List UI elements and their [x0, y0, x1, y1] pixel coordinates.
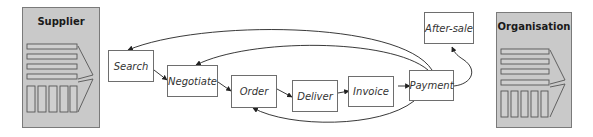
step-label: Order — [240, 86, 269, 97]
step-search: Search — [108, 50, 154, 82]
step-label: Deliver — [297, 91, 333, 102]
step-label: Negotiate — [168, 76, 217, 87]
supplier-document-icon — [27, 44, 93, 112]
step-label: Search — [114, 61, 149, 72]
step-negotiate: Negotiate — [167, 65, 218, 97]
step-deliver: Deliver — [292, 80, 338, 112]
diagram-graphics — [0, 0, 593, 137]
step-invoice: Invoice — [348, 76, 394, 107]
arrow-search-negotiate — [154, 70, 167, 80]
arrow-payment-aftersale — [452, 47, 472, 86]
step-label: After-sale — [425, 23, 473, 34]
step-after-sale: After-sale — [424, 12, 474, 44]
step-order: Order — [231, 75, 277, 108]
arrow-order-deliver — [277, 89, 292, 97]
step-label: Invoice — [353, 86, 389, 97]
arrow-negotiate-order — [218, 82, 231, 91]
step-label: Payment — [409, 80, 453, 91]
arrow-payment-search — [128, 30, 432, 70]
organisation-document-icon — [501, 49, 565, 117]
step-payment: Payment — [409, 70, 454, 101]
arrow-payment-negotiate — [196, 45, 428, 70]
